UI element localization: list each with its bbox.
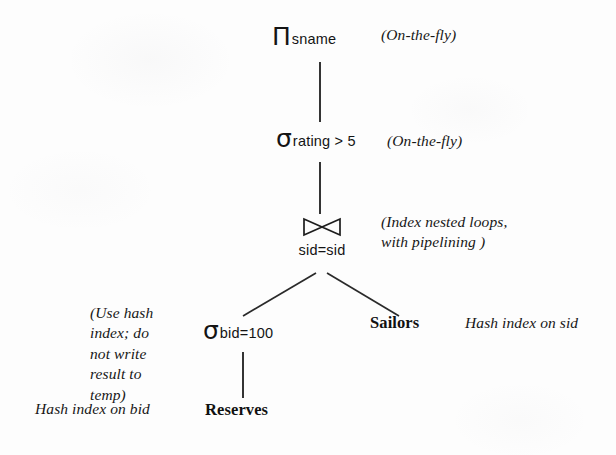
node-selection-bid[interactable]: σbid=100 (203, 318, 272, 343)
projection-subscript: sname (292, 31, 337, 47)
edge-join-to-selection-bid (243, 273, 316, 316)
sigma-selection-operator-icon: σ (276, 124, 292, 153)
node-projection[interactable]: Πsname (272, 24, 335, 49)
annotation-selection-rating-on-the-fly: (On-the-fly) (387, 131, 462, 151)
annotation-projection-on-the-fly: (On-the-fly) (381, 25, 456, 45)
selection-rating-subscript: rating > 5 (293, 133, 356, 149)
join-subscript: sid=sid (286, 242, 358, 258)
bowtie-join-operator-icon (302, 216, 342, 238)
edge-join-to-sailors (327, 273, 399, 316)
pi-projection-operator-icon: Π (272, 22, 291, 51)
node-selection-rating[interactable]: σrating > 5 (276, 126, 355, 151)
relation-reserves[interactable]: Reserves (205, 400, 268, 420)
plan-tree-figure: Πsname (On-the-fly) σrating > 5 (On-the-… (0, 0, 616, 455)
annotation-hash-index-on-sid: Hash index on sid (465, 313, 578, 333)
node-join[interactable]: sid=sid (286, 216, 358, 258)
selection-bid-subscript: bid=100 (220, 325, 273, 341)
annotation-hash-index-on-bid: Hash index on bid (35, 399, 150, 419)
relation-sailors[interactable]: Sailors (370, 313, 419, 333)
sigma-selection-operator-icon: σ (203, 316, 219, 345)
annotation-join-index-nested-loops: (Index nested loops, with pipelining ) (381, 212, 507, 253)
annotation-reserves-access-method: (Use hash index; do not write result to … (90, 303, 153, 405)
